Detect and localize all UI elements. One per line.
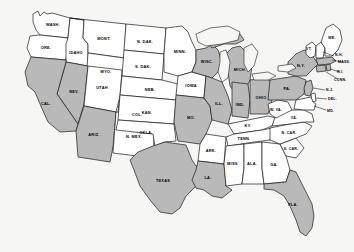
label-MO: MO. xyxy=(187,115,195,120)
label-TN: TENN. xyxy=(238,136,251,141)
us-map-container: WASH. ORE. IDAHO MONT. WYO. N. DAK. S. D… xyxy=(0,0,354,252)
lake-erie xyxy=(252,72,276,80)
label-FL: FLA. xyxy=(288,202,298,207)
label-NV: NEV. xyxy=(69,89,79,94)
label-CA: CAL. xyxy=(41,101,51,106)
label-WA: WASH. xyxy=(46,22,60,27)
label-AZ: ARIZ. xyxy=(88,132,99,137)
label-WI: WISC. xyxy=(201,59,214,64)
label-NC: N. CAR. xyxy=(282,131,297,135)
label-NJ: N.J. xyxy=(326,88,333,92)
label-VA: VA. xyxy=(291,116,297,120)
leader-del xyxy=(316,98,327,99)
label-OK: OKLA. xyxy=(139,130,152,135)
label-MA: MASS. xyxy=(338,60,350,64)
state-RI[interactable] xyxy=(326,64,331,71)
label-SC: S. CAR. xyxy=(284,147,299,151)
label-NH: N.H. xyxy=(335,53,343,57)
label-TX: TEXAS xyxy=(156,178,170,183)
label-MT: MONT. xyxy=(97,36,110,41)
label-KY: KY. xyxy=(245,123,252,128)
label-ID: IDAHO xyxy=(69,50,83,55)
leader-nj xyxy=(313,88,325,90)
label-MS: MISS. xyxy=(227,161,239,166)
label-AR: ARK. xyxy=(206,148,217,153)
label-ME: ME. xyxy=(328,35,336,40)
label-UT: UTAH xyxy=(96,85,108,90)
label-OR: ORE. xyxy=(41,45,52,50)
us-states-map[interactable]: WASH. ORE. IDAHO MONT. WYO. N. DAK. S. D… xyxy=(0,0,354,252)
label-MN: MINN. xyxy=(174,49,186,54)
state-IN[interactable] xyxy=(232,82,250,118)
label-NY: N.Y. xyxy=(297,63,305,68)
leader-md xyxy=(314,106,326,110)
label-OH: OHIO xyxy=(256,95,267,100)
label-IN: IND. xyxy=(236,102,245,107)
label-DE: DEL. xyxy=(328,97,337,101)
label-CO: COL. xyxy=(132,112,142,117)
label-GA: GA. xyxy=(270,162,278,167)
label-IA: IOWA xyxy=(185,83,196,88)
label-ND: N. DAK. xyxy=(137,39,153,44)
label-NE: NEB. xyxy=(145,87,155,92)
label-IL: ILL. xyxy=(215,101,223,106)
label-WY: WYO. xyxy=(100,69,111,74)
label-VT: VT. xyxy=(306,47,312,51)
label-RI: R.I. xyxy=(337,70,343,74)
label-MI: MICH. xyxy=(234,67,246,72)
label-PA: PA. xyxy=(284,86,291,91)
label-LA: LA. xyxy=(204,175,211,180)
label-WV: W. VA. xyxy=(270,108,282,112)
label-AL: ALA. xyxy=(247,161,257,166)
label-SD: S. DAK. xyxy=(135,64,151,69)
label-KS: KAN. xyxy=(142,110,153,115)
label-MD: MD. xyxy=(327,109,334,113)
state-CT[interactable] xyxy=(316,65,326,72)
label-CT: CONN. xyxy=(334,78,347,82)
